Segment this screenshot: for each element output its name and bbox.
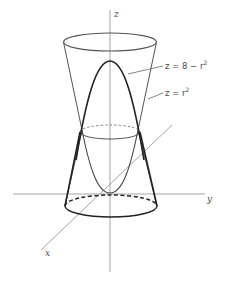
y-axis-label: y: [206, 194, 213, 204]
outer-surface-right-edge: [138, 42, 157, 206]
equation-lower-text: z = r: [165, 88, 186, 98]
leader-line-upper: [128, 66, 163, 74]
equation-upper-text: z = 8 − r: [165, 61, 204, 71]
x-axis-label: x: [45, 248, 50, 258]
equation-upper-exponent: 2: [203, 59, 207, 66]
lower-surface-left-edge: [65, 132, 80, 206]
outer-surface-left-edge: [64, 42, 83, 206]
equation-label-lower: z = r2: [165, 86, 189, 98]
surfaces-diagram: z y x z = 8 − r2 z = r2: [0, 0, 226, 289]
z-axis-label: z: [113, 9, 119, 19]
lower-surface-right-edge: [140, 132, 157, 206]
equation-label-upper: z = 8 − r2: [165, 59, 207, 71]
bottom-ellipse-front: [65, 206, 157, 217]
bottom-ellipse-back: [65, 195, 157, 206]
leader-line-lower: [148, 93, 163, 99]
equation-lower-exponent: 2: [185, 86, 189, 93]
